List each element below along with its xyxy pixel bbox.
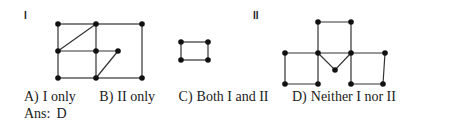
option-d: D)Neither I nor II (292, 89, 406, 104)
graph-i-small-rect (181, 42, 208, 60)
answer-prefix: Ans: (24, 106, 50, 121)
option-text: II only (117, 89, 155, 104)
option-c: C)Both I and II (179, 89, 279, 104)
option-key: A) (24, 89, 39, 104)
option-text: Neither I nor II (311, 89, 396, 104)
graph-i (58, 24, 142, 78)
option-key: C) (179, 89, 193, 104)
option-text: Both I and II (197, 89, 269, 104)
option-a: A)I only (24, 89, 86, 104)
graph-ii (285, 22, 385, 84)
option-text: I only (43, 89, 76, 104)
answer-value: D (56, 106, 66, 121)
option-b: B)II only (99, 89, 165, 104)
graph-diagrams (0, 0, 450, 126)
answer-options: A)I only B)II only C)Both I and II D)Nei… (24, 89, 416, 105)
answer-line: Ans:D (24, 106, 67, 122)
option-key: D) (292, 89, 307, 104)
option-key: B) (99, 89, 113, 104)
